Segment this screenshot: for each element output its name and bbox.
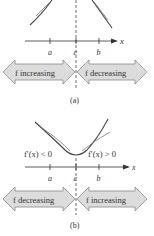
panel-b: f′(x) < 0 f′(x) > 0 x a c b f decreasing…: [3, 119, 147, 230]
caption-a: (a): [70, 96, 79, 105]
derivative-left: f′(x) < 0: [24, 149, 52, 159]
derivative-right: f′(x) > 0: [88, 149, 116, 159]
arrow-label-right-b: f increasing: [86, 195, 127, 205]
arrow-label-left-a: f increasing: [15, 68, 56, 78]
tick-a-a: a: [48, 48, 52, 57]
x-axis-arrowhead-b: [123, 165, 130, 170]
x-axis-arrowhead-a: [111, 39, 118, 44]
diagram-canvas: x a c b f increasing f decreasing (a) f′…: [0, 0, 154, 236]
tick-b-a: b: [97, 48, 101, 57]
tangent-a-left: [36, 2, 50, 16]
curve-a-right: [92, 0, 112, 28]
curve-b-secondary: [42, 128, 110, 151]
arrow-label-left-b: f decreasing: [13, 195, 55, 205]
axis-label-b: x: [131, 163, 136, 172]
tick-c-b: c: [74, 174, 78, 183]
axis-label-a: x: [119, 36, 124, 46]
tick-c-a: c: [74, 48, 78, 57]
tick-b-b: b: [97, 174, 101, 183]
tick-a-b: a: [48, 174, 52, 183]
caption-b: (b): [70, 221, 80, 230]
tangent-a-right: [94, 2, 108, 20]
panel-a: x a c b f increasing f decreasing (a): [3, 0, 147, 105]
arrow-label-right-a: f decreasing: [85, 68, 127, 78]
